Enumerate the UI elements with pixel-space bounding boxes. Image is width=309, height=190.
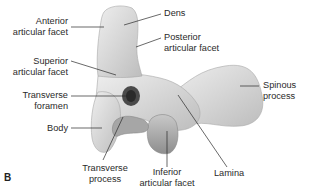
label-transverse-foramen: Transverse foramen — [10, 90, 68, 112]
label-transverse-process: Transverse process — [74, 163, 136, 185]
panel-letter: B — [4, 172, 11, 183]
label-superior-articular-facet: Superior articular facet — [10, 56, 68, 78]
dens-shape — [97, 6, 142, 78]
label-spinous-process: Spinous process — [263, 80, 296, 102]
label-lamina: Lamina — [214, 168, 244, 179]
label-anterior-articular-facet: Anterior articular facet — [10, 16, 68, 38]
label-inferior-articular-facet: Inferior articular facet — [132, 167, 202, 189]
label-body: Body — [10, 123, 68, 134]
inferior-facet-shape — [147, 115, 178, 154]
label-dens: Dens — [164, 8, 185, 19]
label-posterior-articular-facet: Posterior articular facet — [164, 32, 219, 54]
